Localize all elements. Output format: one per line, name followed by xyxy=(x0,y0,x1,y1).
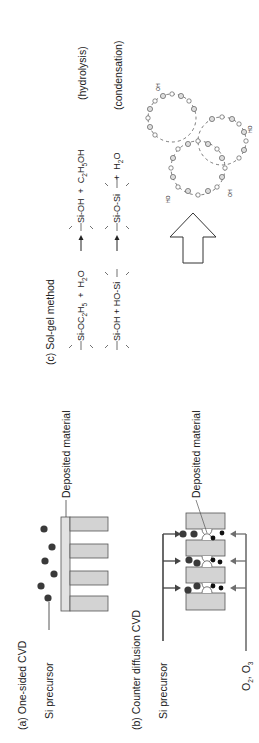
gelation-arrow-icon xyxy=(170,213,216,263)
panel-b-counter-diffusion-cvd: (b) Counter diffusion CVD Si precursor O… xyxy=(130,410,254,730)
precursor-dot xyxy=(41,557,48,564)
panel-a-si-precursor-label: Si precursor xyxy=(43,662,55,719)
panel-a-porous-support xyxy=(70,517,108,611)
panel-c-title: (c) Sol-gel method xyxy=(44,279,56,365)
precursor-dot xyxy=(40,525,47,532)
support-block xyxy=(186,513,225,529)
support-block xyxy=(70,596,108,611)
support-block xyxy=(70,571,108,585)
oxidant-feed-arrows xyxy=(230,531,246,652)
si-precursor-feed-arrows xyxy=(163,531,181,642)
si-bond-lines xyxy=(69,223,93,231)
panel-b-si-precursor-label: Si precursor xyxy=(157,662,169,719)
support-block xyxy=(70,544,108,558)
panel-a-deposited-label: Deposited material xyxy=(60,410,72,498)
network-oh-label: OH xyxy=(227,189,233,197)
condensation-reactant: Si-OH + HO-Si xyxy=(112,282,122,341)
precursor-dot xyxy=(48,543,55,550)
panel-a-title: (a) One-sided CVD xyxy=(16,640,28,730)
precursor-dot xyxy=(37,582,44,589)
silica-network-icon: HO OH HO OH xyxy=(146,83,253,203)
panel-b-oxidant-label: O2, O3 xyxy=(240,661,254,691)
si-bond-lines xyxy=(69,341,93,350)
panel-b-title: (b) Counter diffusion CVD xyxy=(130,610,142,730)
silica-membrane-preparation-figure: (a) One-sided CVD Si precursor Deposited… xyxy=(0,0,259,743)
network-oh-label: OH xyxy=(155,83,161,91)
support-block xyxy=(70,517,108,531)
panel-a-deposited-layer xyxy=(61,517,70,611)
hydrolysis-equation: Si-OC2H5+H2O Si-OH+C2H5OH (hydrolysis) xyxy=(69,46,93,350)
precursor-dot xyxy=(44,594,51,601)
condensation-arrow xyxy=(115,235,120,251)
hydrolysis-arrow xyxy=(79,235,84,251)
panel-b-deposited-material xyxy=(202,529,212,593)
panel-b-deposited-label: Deposited material xyxy=(190,410,202,498)
support-block xyxy=(186,593,225,610)
hydrolysis-reactant: Si-OC2H5+H2O xyxy=(76,270,88,341)
condensation-label: (condensation) xyxy=(112,41,124,110)
panel-a-precursor-dots xyxy=(37,525,57,601)
condensation-equation: Si-OH + HO-Si Si-O-Si+H2O (condensation) xyxy=(105,41,129,350)
panel-a-one-sided-cvd: (a) One-sided CVD Si precursor Deposited… xyxy=(16,410,108,730)
network-ho-label: HO xyxy=(247,125,253,133)
condensation-product: Si-O-Si+H2O xyxy=(112,153,124,223)
panel-c-sol-gel-method: (c) Sol-gel method Si-OC2H5+H2O Si-OH+C2… xyxy=(44,41,253,365)
network-ho-label: HO xyxy=(165,195,171,203)
support-block xyxy=(186,567,225,583)
support-block xyxy=(186,540,225,556)
hydrolysis-label: (hydrolysis) xyxy=(76,46,88,100)
hydrolysis-product: Si-OH+C2H5OH xyxy=(76,149,88,223)
precursor-dot xyxy=(50,570,57,577)
